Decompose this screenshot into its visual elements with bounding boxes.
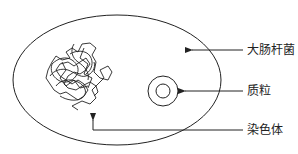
label-plasmid: 质粒 xyxy=(247,84,271,98)
label-chromosome: 染色体 xyxy=(247,123,283,137)
arrow-chromosome xyxy=(93,120,243,130)
cell-outline xyxy=(13,15,221,145)
plasmid-shape xyxy=(148,76,178,106)
chromosome-coil xyxy=(46,43,112,110)
label-cell: 大肠杆菌 xyxy=(247,43,295,57)
